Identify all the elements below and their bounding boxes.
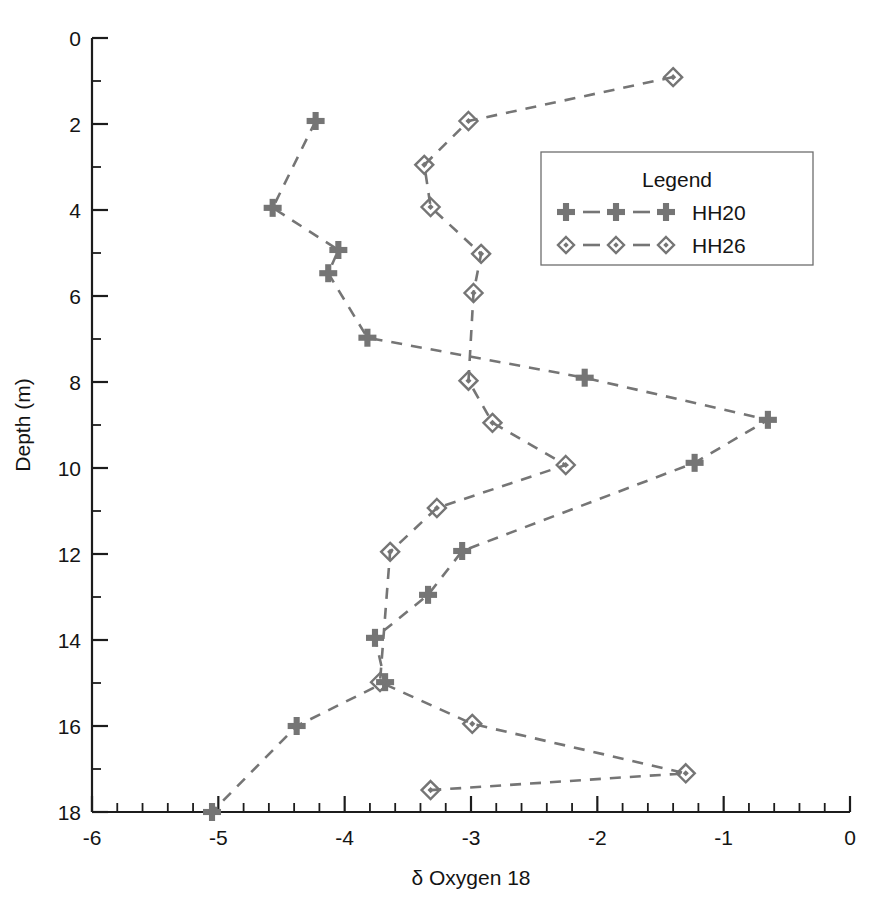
x-tick-label: -3 — [462, 826, 481, 849]
data-point-hh26 — [459, 112, 477, 130]
data-point-hh20 — [366, 629, 384, 647]
data-point-hh20 — [264, 199, 282, 217]
data-point-hh20 — [759, 411, 777, 429]
oxygen-isotope-depth-chart: -6-5-4-3-2-10 024681012141618 δ Oxygen 1… — [0, 0, 881, 907]
data-point-hh20 — [307, 112, 325, 130]
y-tick-label: 0 — [69, 27, 81, 50]
x-tick-label: -1 — [714, 826, 733, 849]
x-axis-tick-labels: -6-5-4-3-2-10 — [83, 826, 856, 849]
data-point-hh20 — [319, 264, 337, 282]
data-point-hh20 — [576, 369, 594, 387]
data-point-hh20 — [329, 241, 347, 259]
y-tick-label: 10 — [58, 457, 81, 480]
data-point-hh26 — [557, 456, 575, 474]
y-axis-tick-labels: 024681012141618 — [58, 27, 82, 824]
legend-label-hh26: HH26 — [692, 234, 746, 257]
y-tick-label: 16 — [58, 715, 81, 738]
y-tick-label: 18 — [58, 801, 81, 824]
x-tick-label: 0 — [844, 826, 856, 849]
y-axis-minor-ticks — [92, 81, 101, 769]
data-point-hh26 — [463, 715, 481, 733]
data-point-hh20 — [288, 717, 306, 735]
y-axis-title: Depth (m) — [11, 378, 34, 471]
x-axis-title: δ Oxygen 18 — [411, 866, 530, 889]
y-tick-label: 14 — [58, 629, 82, 652]
y-tick-label: 2 — [69, 113, 81, 136]
y-tick-label: 8 — [69, 371, 81, 394]
x-tick-label: -4 — [335, 826, 354, 849]
x-tick-label: -5 — [209, 826, 228, 849]
y-tick-label: 12 — [58, 543, 81, 566]
data-point-hh20 — [686, 454, 704, 472]
data-point-hh20 — [358, 329, 376, 347]
y-tick-label: 4 — [69, 199, 81, 222]
legend-label-hh20: HH20 — [692, 201, 746, 224]
plot-canvas: -6-5-4-3-2-10 024681012141618 δ Oxygen 1… — [0, 0, 881, 907]
y-tick-label: 6 — [69, 285, 81, 308]
x-tick-label: -2 — [588, 826, 607, 849]
legend: Legend HH20HH26 — [541, 152, 813, 265]
x-tick-label: -6 — [83, 826, 102, 849]
legend-title: Legend — [642, 168, 712, 191]
data-point-hh26 — [483, 414, 501, 432]
